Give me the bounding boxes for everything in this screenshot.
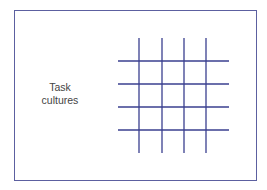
grid-network-icon [0, 0, 267, 190]
